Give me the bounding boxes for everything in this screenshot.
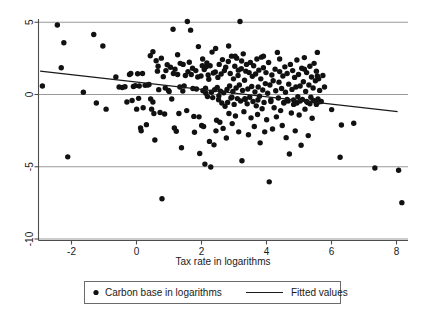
data-point [59,65,64,70]
data-point [236,67,241,72]
data-point [314,68,319,73]
data-point [239,158,244,163]
data-point [255,112,260,117]
x-tick-label--2: -2 [67,246,76,257]
data-point [129,98,134,103]
data-point [277,56,282,61]
x-tick-label-0: 0 [134,246,140,257]
y-tick-label--5: -5 [24,162,35,171]
y-tick-label--10: -10 [24,231,35,246]
data-point [225,100,230,105]
data-point [174,129,179,134]
data-point [254,103,259,108]
data-point [255,97,260,102]
data-point [248,115,253,120]
data-point [289,110,294,115]
data-point [310,85,315,90]
data-point [171,71,176,76]
data-point [262,129,267,134]
data-point [151,111,156,116]
data-point [193,68,198,73]
data-point [284,71,289,76]
data-point [228,71,233,76]
data-point [55,22,60,27]
x-tick-label-6: 6 [329,246,335,257]
data-point [261,53,266,58]
data-point [283,90,288,95]
data-point [267,179,272,184]
data-point [170,27,175,32]
data-point [270,78,275,83]
data-point [146,82,151,87]
data-point [302,55,307,60]
data-point [241,51,246,56]
data-point [242,78,247,83]
data-point [103,106,108,111]
data-point [207,139,212,144]
data-point [156,87,161,92]
data-point [113,74,118,79]
data-point [263,70,268,75]
data-point [280,123,285,128]
data-point [320,73,325,78]
data-point [144,122,149,127]
data-point [180,62,185,67]
data-point [311,61,316,66]
data-point [197,151,202,156]
data-point [239,58,244,63]
data-point [279,86,284,91]
data-point [351,120,356,125]
data-point [128,71,133,76]
data-point [220,57,225,62]
y-tick-label-0: 0 [24,91,35,97]
data-point [176,111,181,116]
data-point [206,77,211,82]
data-point [200,56,205,61]
data-point [256,84,261,89]
x-axis-title: Tax rate in logarithms [175,256,270,267]
x-tick-label-8: 8 [394,246,400,257]
data-point [224,135,229,140]
data-point [189,72,194,77]
data-point [196,114,201,119]
data-point [275,50,280,55]
data-point [302,66,307,71]
data-point [40,83,45,88]
data-point [226,43,231,48]
data-point [187,60,192,65]
data-point [122,84,127,89]
data-point [137,83,142,88]
data-point [315,73,320,78]
data-point [226,111,231,116]
data-point [288,62,293,67]
data-point [153,58,158,63]
data-point [265,91,270,96]
data-point [252,124,257,129]
data-point [296,112,301,117]
data-point [217,62,222,67]
data-point [136,96,141,101]
data-point [198,73,203,78]
data-point [283,135,288,140]
x-tick-label-4: 4 [264,246,270,257]
data-point [91,32,96,37]
data-point [256,67,261,72]
legend: Carbon base in logarithms Fitted values [85,282,348,304]
data-point [287,151,292,156]
data-point [213,128,218,133]
data-point [278,108,283,113]
data-point [201,124,206,129]
data-point [267,82,272,87]
data-point [297,83,302,88]
data-point [81,90,86,95]
data-point [249,84,254,89]
data-point [175,52,180,57]
data-point [264,117,269,122]
data-point [276,79,281,84]
data-point [250,99,255,104]
data-point [61,40,66,45]
data-point [339,122,344,127]
data-point [163,68,168,73]
data-point [226,59,231,64]
chart-figure: 50-5-10 -202468 Tax rate in logarithms C… [0,0,423,313]
